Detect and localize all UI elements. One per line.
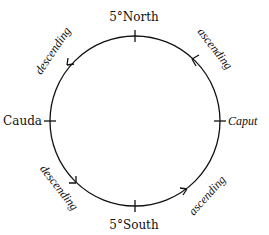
label-north: 5°North — [109, 10, 159, 24]
label-cauda: Cauda — [3, 114, 42, 128]
label-caput: Caput — [228, 114, 258, 128]
label-south: 5°South — [109, 218, 159, 232]
label-lower-right-ascending: ascending — [186, 173, 229, 219]
arrow-upper-left-icon — [67, 58, 74, 65]
label-lower-left-descending: descending — [37, 162, 81, 213]
label-upper-right-ascending: ascending — [195, 25, 236, 72]
node-cycle-diagram: 5°North 5°South Cauda Caput descending a… — [0, 0, 269, 235]
